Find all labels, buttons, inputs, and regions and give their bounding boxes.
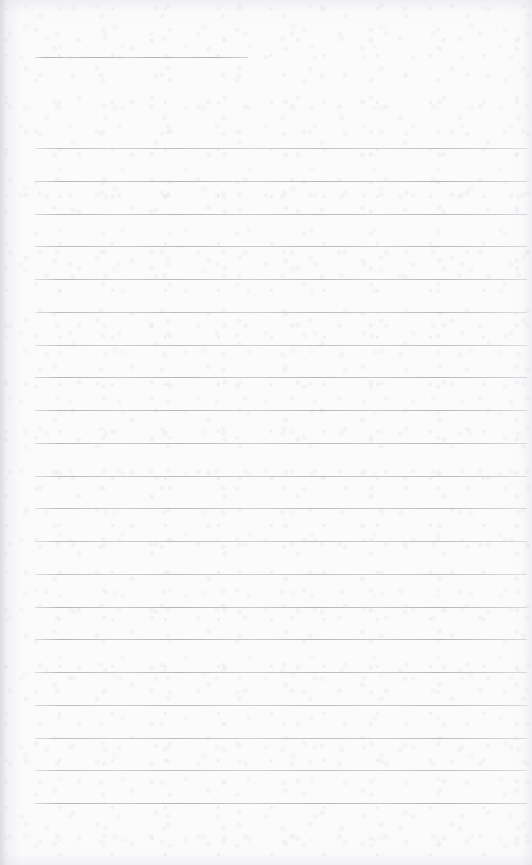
ruled-line	[35, 181, 527, 182]
ruled-line	[35, 738, 527, 739]
ruled-line	[35, 705, 527, 706]
ruled-line	[35, 377, 527, 378]
ruled-line	[35, 541, 527, 542]
ruled-line	[35, 214, 527, 215]
paper-texture	[0, 0, 532, 865]
ruled-line	[35, 672, 527, 673]
ruled-line	[35, 279, 527, 280]
ruled-line	[35, 345, 527, 346]
ruled-line	[35, 508, 527, 509]
header-rule	[35, 57, 248, 58]
ruled-paper-page	[0, 0, 532, 865]
ruled-line	[35, 639, 527, 640]
ruled-line	[35, 770, 527, 771]
ruled-line	[35, 410, 527, 411]
ruled-line	[35, 312, 527, 313]
page-vignette	[0, 0, 532, 865]
ruled-line	[35, 246, 527, 247]
ruled-line	[35, 607, 527, 608]
ruled-line	[35, 476, 527, 477]
ruled-line	[35, 803, 527, 804]
ruled-line	[35, 148, 527, 149]
ruled-line	[35, 443, 527, 444]
ruled-line	[35, 574, 527, 575]
